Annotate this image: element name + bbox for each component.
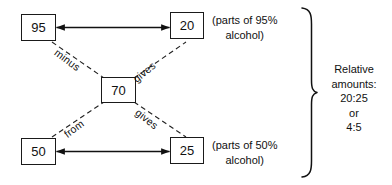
box-bottom-right-25: 25 — [170, 137, 204, 164]
note-top-parts-95: (parts of 95% alcohol) — [212, 13, 277, 43]
box-top-left-value: 95 — [31, 21, 45, 34]
relative-amounts-line-4: or — [318, 106, 390, 121]
box-bottom-left-50: 50 — [21, 138, 56, 165]
box-bottom-right-value: 25 — [180, 144, 194, 157]
box-top-left-95: 95 — [21, 14, 56, 41]
box-top-right-value: 20 — [180, 19, 194, 32]
box-center-value: 70 — [111, 84, 125, 97]
box-center-70: 70 — [101, 77, 136, 103]
relative-amounts-line-2: amounts: — [318, 77, 390, 92]
curly-brace — [302, 8, 317, 177]
relative-amounts-line-5: 4:5 — [318, 120, 390, 135]
note-top-line-1: (parts of 95% — [212, 13, 277, 28]
relative-amounts-line-3: 20:25 — [318, 91, 390, 106]
box-bottom-left-value: 50 — [31, 145, 45, 158]
relative-amounts-line-1: Relative — [318, 62, 390, 77]
note-bottom-line-1: (parts of 50% — [212, 138, 277, 153]
note-bottom-parts-50: (parts of 50% alcohol) — [212, 138, 277, 168]
note-bottom-line-2: alcohol) — [212, 153, 277, 168]
alligation-diagram: 95 20 70 50 25 minus gives from gives (p… — [0, 0, 392, 185]
box-top-right-20: 20 — [170, 12, 204, 39]
note-top-line-2: alcohol) — [212, 28, 277, 43]
relative-amounts-note: Relative amounts: 20:25 or 4:5 — [318, 62, 390, 135]
